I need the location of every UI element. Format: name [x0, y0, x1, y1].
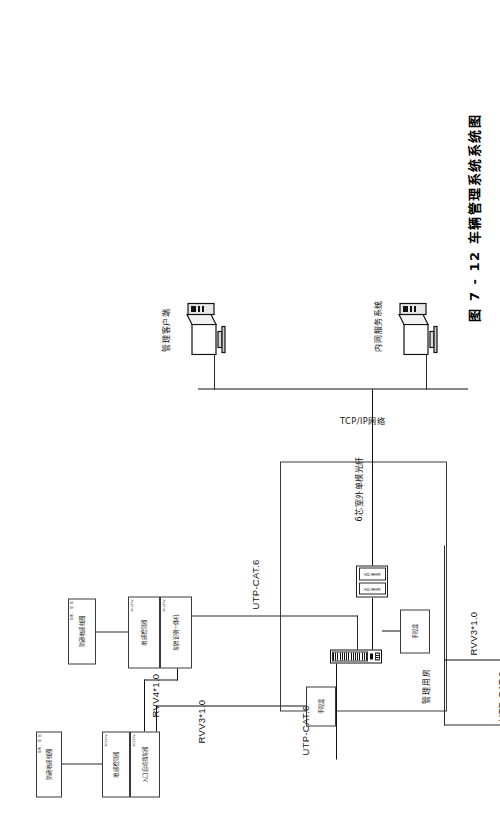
entrance-loop-cable-h — [144, 679, 145, 731]
intranet-server-label: 内网服务系统 — [372, 299, 383, 351]
converter-unit-b: 光纤收发器 — [359, 568, 386, 581]
exit-utp-h — [444, 545, 445, 725]
exit-barrier-cable-label: RVV3*1.0 — [468, 611, 479, 655]
exit-barrier-ctrl-v — [444, 659, 500, 660]
management-client-workstation — [186, 297, 242, 355]
switch-ports — [332, 651, 368, 661]
control-box-bottom-label: 手控盒 — [412, 623, 418, 639]
control-box-bottom: 手控盒 — [400, 609, 430, 653]
entrance-coil-note: 埋地 、 穿 管 — [39, 734, 42, 753]
entrance-coil-link — [62, 763, 102, 764]
management-client-label: 管理客户端 — [160, 308, 171, 351]
network-switch — [330, 649, 382, 663]
converter-unit-a: 光纤收发器 — [359, 582, 386, 595]
switch-base — [375, 652, 380, 660]
entrance-rec-coil-label: 防砸地感线圈 — [79, 615, 85, 646]
entrance-barrier-cable-label: RVV3*1.0 — [196, 699, 207, 743]
workstation-icon — [186, 297, 242, 355]
entrance-barrier-power: AC220V — [133, 734, 136, 746]
diagram-canvas: 防砸地感线圈 埋地 、 穿 管 地感检测器 AC220V 入口自动挡车器 AC2… — [0, 0, 500, 821]
fiber-media-converter: 光纤收发器 光纤收发器 — [356, 565, 388, 597]
entrance-detector-box: 地感检测器 AC220V — [102, 731, 130, 797]
entrance-recognizer-box: 车牌识别一体机 AC220V — [160, 596, 192, 668]
entrance-recognizer-power: AC220V — [163, 599, 166, 611]
exit-utp-v — [444, 724, 500, 725]
entrance-coil-label: 防砸地感线圈 — [46, 748, 52, 779]
switch-indicator-bar — [370, 653, 373, 659]
entrance-coil-box: 防砸地感线圈 埋地 、 穿 管 — [36, 731, 62, 797]
entrance-rec-coil-note: 埋地 、 穿 管 — [71, 601, 74, 620]
entrance-rec-coil-box: 防砸地感线圈 埋地 、 穿 管 — [68, 598, 96, 664]
client-branch — [214, 353, 215, 389]
entrance-utp-label: UTP-CAT.6 — [250, 559, 261, 609]
exit-utp-v-in-room — [382, 630, 400, 631]
server-branch — [426, 353, 427, 389]
entrance-rec-detector-label: 地感检测器 — [141, 619, 147, 645]
room-utp-top-label: UTP-CAT.6 — [300, 705, 311, 755]
entrance-rec-detector-box: 地感检测器 AC220V — [128, 596, 160, 668]
room-utp-top — [336, 663, 337, 759]
entrance-detector-power: AC220V — [105, 734, 108, 746]
intranet-server-workstation — [398, 297, 454, 355]
tcpip-bus — [198, 388, 468, 389]
server-icon — [398, 297, 454, 355]
entrance-rec-detector-power: AC220V — [131, 599, 134, 611]
figure-caption: 图 7 - 12 车辆管理系统系统图 — [464, 113, 483, 321]
control-box-top-label: 手控盒 — [318, 698, 324, 714]
management-room-label: 管理用房 — [420, 667, 431, 703]
tcpip-label: TCP/IP网络 — [340, 413, 385, 425]
entrance-barrier-box: 入口自动挡车器 AC220V — [130, 731, 160, 797]
exit-utp-label: UTP-CAT.6 — [496, 671, 500, 721]
entrance-recognizer-label: 车牌识别一体机 — [173, 614, 179, 650]
switch-to-converter — [372, 597, 373, 649]
entrance-rec-coil-link — [96, 631, 128, 632]
entrance-barrier-label: 入口自动挡车器 — [142, 746, 148, 782]
entrance-detector-label: 地感检测器 — [113, 751, 119, 777]
fiber-label: 6芯室外单模光纤 — [352, 456, 364, 521]
entrance-barrier-ctrl-h — [156, 705, 157, 731]
